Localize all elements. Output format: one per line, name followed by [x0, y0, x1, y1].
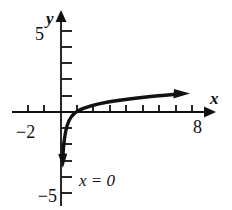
graph-figure: y 5 −5 −2 8 x x = 0: [0, 0, 232, 210]
y-tick-label-minus5: −5: [38, 186, 57, 206]
logarithmic-curve-path: [63, 94, 176, 158]
x-axis-label: x: [209, 89, 219, 108]
y-axis-arrowhead: [56, 10, 67, 22]
x-axis-arrowhead: [204, 107, 216, 118]
y-tick-label-5: 5: [35, 24, 44, 44]
x-axis-ticks-negative: [28, 105, 44, 112]
plot-canvas: y 5 −5 −2 8 x x = 0: [0, 0, 232, 210]
x-axis-group: [12, 105, 216, 118]
y-axis-group: [56, 10, 73, 206]
asymptote-label: x = 0: [78, 171, 116, 190]
logarithmic-curve-group: [58, 89, 190, 168]
x-tick-label-minus2: −2: [16, 122, 35, 142]
x-tick-label-8: 8: [193, 117, 202, 137]
y-axis-label: y: [44, 9, 54, 28]
curve-right-arrowhead: [173, 89, 190, 99]
y-axis-ticks-positive: [61, 31, 72, 96]
